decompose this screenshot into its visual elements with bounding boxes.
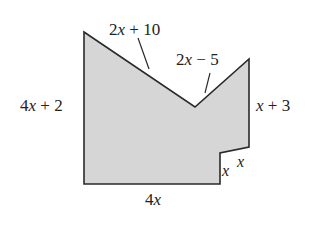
leader-line-top-left [138, 38, 149, 69]
label-left-side: 4x + 2 [20, 97, 63, 114]
label-notch-horizontal: x [237, 154, 244, 170]
label-notch-vertical: x [222, 163, 229, 179]
label-right-side: x + 3 [256, 97, 290, 114]
diagram-stage: 2x + 10 2x − 5 4x + 2 x + 3 x x 4x [0, 0, 314, 234]
label-top-left-slant: 2x + 10 [109, 21, 160, 38]
label-bottom-side: 4x [145, 191, 161, 208]
label-top-right-slant: 2x − 5 [176, 51, 219, 68]
leader-line-top-right [205, 73, 210, 93]
